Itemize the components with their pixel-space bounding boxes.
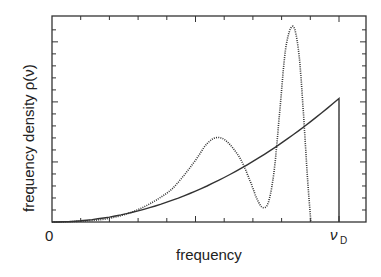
x-tick-label-0: 0 [45,227,53,244]
plot-frame [52,16,366,222]
chart: 0 ν D frequency frequency density ρ(ν) [0,0,381,277]
series-group [52,26,339,222]
debye-model-line [52,98,339,222]
actual-spectrum-line [52,26,311,222]
nu-d-main: ν [330,226,338,243]
nu-d-sub: D [340,235,347,246]
x-tick-label-nu-d: ν D [330,226,347,246]
y-axis-label: frequency density ρ(ν) [20,64,37,212]
x-axis-label: frequency [176,246,242,263]
ticks [52,16,366,222]
